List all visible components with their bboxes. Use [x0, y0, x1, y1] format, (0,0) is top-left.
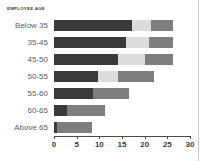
chart-screenshot: EMPLOYEE AGE Below 3535-4545-5050-5555-6… [0, 0, 209, 161]
category-label: 55-60 [28, 87, 48, 101]
bar-segment[interactable] [145, 54, 173, 65]
category-label: Above 65 [14, 121, 48, 135]
x-axis-tick-label: 5 [74, 140, 78, 149]
bar-segment[interactable] [126, 37, 149, 48]
category-label: 45-50 [28, 53, 48, 67]
chart-title: EMPLOYEE AGE [7, 6, 45, 11]
bar-row[interactable] [54, 71, 190, 82]
x-axis-tick [145, 136, 146, 139]
category-axis-labels: Below 3535-4545-5050-5555-6060-65Above 6… [0, 17, 51, 136]
category-label: 60-65 [28, 104, 48, 118]
bar-segment[interactable] [54, 54, 118, 65]
bar-segment[interactable] [118, 54, 144, 65]
x-axis-tick-label: 0 [52, 140, 56, 149]
bar-row[interactable] [54, 122, 190, 133]
bar-segment[interactable] [132, 20, 151, 31]
x-axis-tick [99, 136, 100, 139]
bar-row[interactable] [54, 37, 190, 48]
category-label: 35-45 [28, 36, 48, 50]
x-axis-tick [190, 136, 191, 139]
bar-segment[interactable] [93, 88, 128, 99]
bar-segment[interactable] [67, 105, 105, 116]
bar-row[interactable] [54, 88, 190, 99]
x-axis-tick-label: 30 [186, 140, 195, 149]
x-axis-tick [77, 136, 78, 139]
bar-segment[interactable] [57, 122, 92, 133]
category-label: Below 35 [15, 19, 48, 33]
bar-segment[interactable] [54, 71, 98, 82]
x-axis-tick-label: 15 [118, 140, 127, 149]
bar-row[interactable] [54, 54, 190, 65]
bars-container [54, 17, 190, 136]
bar-segment[interactable] [151, 20, 173, 31]
bar-segment[interactable] [54, 105, 67, 116]
x-axis-tick [54, 136, 55, 139]
x-axis-tick-label: 20 [140, 140, 149, 149]
category-label: 50-55 [28, 70, 48, 84]
bar-row[interactable] [54, 20, 190, 31]
x-axis-tick [167, 136, 168, 139]
bar-segment[interactable] [98, 71, 118, 82]
x-axis-tick-label: 10 [95, 140, 104, 149]
bar-row[interactable] [54, 105, 190, 116]
x-axis-tick-label: 25 [163, 140, 172, 149]
bar-segment[interactable] [54, 20, 132, 31]
plot-area: Below 3535-4545-5050-5555-6060-65Above 6… [0, 17, 199, 141]
x-axis-tick [122, 136, 123, 139]
bar-segment[interactable] [54, 37, 126, 48]
bar-segment[interactable] [118, 71, 153, 82]
bar-segment[interactable] [54, 88, 93, 99]
bar-segment[interactable] [149, 37, 173, 48]
